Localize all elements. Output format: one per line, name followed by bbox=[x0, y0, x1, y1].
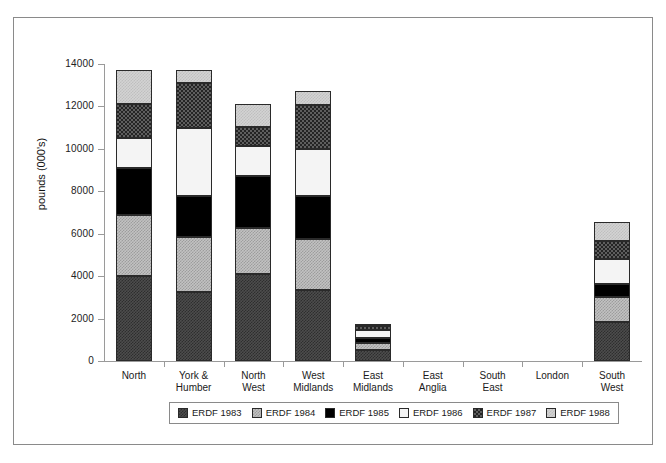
y-axis-tick-label-wrap: 4000 bbox=[28, 271, 94, 281]
y-axis-tick-label-wrap: 14000 bbox=[28, 59, 94, 69]
y-axis-tick-label-wrap: 12000 bbox=[28, 101, 94, 111]
plot-area bbox=[104, 46, 642, 360]
stacked-bar[interactable] bbox=[235, 63, 271, 360]
x-axis-tick bbox=[403, 361, 404, 367]
bar-segment[interactable] bbox=[235, 127, 271, 146]
x-axis-tick bbox=[283, 361, 284, 367]
y-axis-tick bbox=[98, 361, 105, 362]
x-axis-tick bbox=[582, 361, 583, 367]
y-axis-tick-label-wrap: 2000 bbox=[28, 314, 94, 324]
legend-label: ERDF 1988 bbox=[560, 408, 610, 418]
legend-swatch-icon bbox=[252, 408, 262, 418]
stacked-bar[interactable] bbox=[534, 63, 570, 360]
bar-segment[interactable] bbox=[235, 274, 271, 361]
bar-group[interactable] bbox=[475, 63, 511, 360]
x-axis-tick bbox=[224, 361, 225, 367]
x-axis-tick bbox=[463, 361, 464, 367]
bar-segment[interactable] bbox=[116, 70, 152, 104]
bar-segment[interactable] bbox=[176, 128, 212, 196]
stacked-bar[interactable] bbox=[475, 63, 511, 360]
legend-swatch-icon bbox=[473, 408, 483, 418]
x-axis-tick bbox=[522, 361, 523, 367]
bar-segment[interactable] bbox=[594, 322, 630, 361]
bar-segment[interactable] bbox=[295, 196, 331, 239]
y-axis-tick-label-wrap: 0 bbox=[28, 356, 94, 366]
stacked-bar[interactable] bbox=[295, 63, 331, 360]
bar-segment[interactable] bbox=[176, 292, 212, 361]
bar-segment[interactable] bbox=[116, 168, 152, 215]
bar-segment[interactable] bbox=[235, 146, 271, 177]
bar-segment[interactable] bbox=[295, 91, 331, 106]
y-axis-tick-label-wrap: 6000 bbox=[28, 229, 94, 239]
bar-segment[interactable] bbox=[235, 176, 271, 228]
bar-segment[interactable] bbox=[176, 70, 212, 83]
bar-segment[interactable] bbox=[116, 215, 152, 277]
bar-segment[interactable] bbox=[116, 104, 152, 138]
y-axis-tick-label: 14000 bbox=[34, 59, 94, 69]
bar-group[interactable] bbox=[594, 63, 630, 360]
bar-segment[interactable] bbox=[235, 104, 271, 126]
legend-item[interactable]: ERDF 1988 bbox=[546, 408, 610, 418]
legend-swatch-icon bbox=[325, 408, 335, 418]
y-axis-tick-label: 4000 bbox=[34, 271, 94, 281]
bar-segment[interactable] bbox=[594, 259, 630, 283]
legend-item[interactable]: ERDF 1984 bbox=[252, 408, 316, 418]
bar-group[interactable] bbox=[116, 63, 152, 360]
legend-label: ERDF 1984 bbox=[266, 408, 316, 418]
bar-group[interactable] bbox=[295, 63, 331, 360]
bar-group[interactable] bbox=[355, 63, 391, 360]
bar-segment[interactable] bbox=[295, 105, 331, 148]
stacked-bar[interactable] bbox=[594, 63, 630, 360]
y-axis-tick-label: 2000 bbox=[34, 314, 94, 324]
stacked-bar[interactable] bbox=[355, 63, 391, 360]
stacked-bar[interactable] bbox=[415, 63, 451, 360]
y-axis-tick-label: 6000 bbox=[34, 229, 94, 239]
bar-segment[interactable] bbox=[594, 284, 630, 298]
legend-item[interactable]: ERDF 1987 bbox=[473, 408, 537, 418]
chart-legend: ERDF 1983ERDF 1984ERDF 1985ERDF 1986ERDF… bbox=[169, 402, 619, 424]
bar-segment[interactable] bbox=[355, 330, 391, 337]
bar-group[interactable] bbox=[415, 63, 451, 360]
stacked-bar[interactable] bbox=[116, 63, 152, 360]
stacked-bar[interactable] bbox=[176, 63, 212, 360]
bar-group[interactable] bbox=[235, 63, 271, 360]
bar-segment[interactable] bbox=[594, 241, 630, 259]
y-axis-tick-label-wrap: 10000 bbox=[28, 144, 94, 154]
bar-segment[interactable] bbox=[594, 222, 630, 241]
bar-segment[interactable] bbox=[355, 350, 391, 361]
bar-segment[interactable] bbox=[176, 237, 212, 292]
legend-label: ERDF 1983 bbox=[192, 408, 242, 418]
x-axis-tick bbox=[343, 361, 344, 367]
x-axis-tick bbox=[164, 361, 165, 367]
legend-swatch-icon bbox=[399, 408, 409, 418]
legend-swatch-icon bbox=[178, 408, 188, 418]
bar-segment[interactable] bbox=[295, 149, 331, 196]
legend-label: ERDF 1987 bbox=[487, 408, 537, 418]
y-axis-tick-label: 0 bbox=[34, 356, 94, 366]
y-axis-title: pounds (000's) bbox=[35, 114, 47, 234]
y-axis-tick-label-wrap: 8000 bbox=[28, 186, 94, 196]
x-axis-category-label: South West bbox=[567, 370, 657, 394]
bar-group[interactable] bbox=[176, 63, 212, 360]
bar-segment[interactable] bbox=[176, 83, 212, 128]
legend-item[interactable]: ERDF 1985 bbox=[325, 408, 389, 418]
bar-segment[interactable] bbox=[295, 239, 331, 290]
legend-label: ERDF 1985 bbox=[339, 408, 389, 418]
y-axis-tick-label: 10000 bbox=[34, 144, 94, 154]
bar-segment[interactable] bbox=[176, 196, 212, 237]
legend-item[interactable]: ERDF 1986 bbox=[399, 408, 463, 418]
bar-segment[interactable] bbox=[594, 297, 630, 321]
bar-group[interactable] bbox=[534, 63, 570, 360]
bar-segment[interactable] bbox=[116, 276, 152, 361]
chart-frame: pounds (000's) 1400012000100008000600040… bbox=[13, 17, 653, 445]
bar-segment[interactable] bbox=[355, 324, 391, 326]
bar-segment[interactable] bbox=[235, 228, 271, 274]
bar-segment[interactable] bbox=[355, 338, 391, 343]
bar-segment[interactable] bbox=[355, 326, 391, 330]
legend-label: ERDF 1986 bbox=[413, 408, 463, 418]
bar-segment[interactable] bbox=[355, 343, 391, 350]
bar-segment[interactable] bbox=[295, 290, 331, 361]
y-axis-tick-label: 8000 bbox=[34, 186, 94, 196]
bar-segment[interactable] bbox=[116, 138, 152, 168]
legend-item[interactable]: ERDF 1983 bbox=[178, 408, 242, 418]
